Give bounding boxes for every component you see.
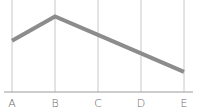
gridlines	[12, 0, 184, 92]
line-chart: ABCDE	[0, 0, 197, 110]
x-tick-label: B	[51, 97, 58, 110]
x-tick-label: A	[8, 97, 16, 110]
x-tick-label: E	[181, 97, 188, 110]
x-tick-label: C	[94, 97, 102, 110]
x-tick-label: D	[137, 97, 145, 110]
x-tick-labels: ABCDE	[8, 97, 187, 110]
